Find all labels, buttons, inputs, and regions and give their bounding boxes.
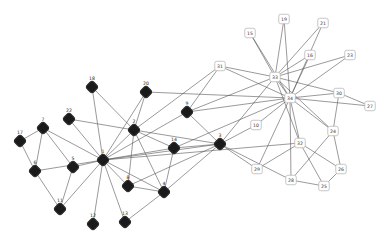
node-11[interactable]: 11: [53, 198, 66, 216]
node-label: 14: [171, 137, 177, 142]
node-19[interactable]: 19: [279, 14, 290, 24]
edge-4-13: [125, 192, 164, 222]
node-shape[interactable]: [167, 141, 180, 154]
node-layer: 1234567891112131417182022101516192123242…: [13, 14, 375, 230]
edge-2-4: [134, 130, 164, 192]
edge-32-33: [275, 77, 300, 143]
edge-29-34: [257, 98, 290, 169]
node-23[interactable]: 23: [345, 50, 356, 60]
node-18[interactable]: 18: [85, 76, 98, 94]
node-label: 6: [34, 160, 37, 165]
node-33[interactable]: 33: [270, 72, 281, 82]
node-9[interactable]: 9: [180, 101, 193, 119]
node-25[interactable]: 25: [319, 181, 330, 191]
edge-24-30: [333, 93, 339, 131]
node-shape[interactable]: [13, 134, 26, 147]
node-label: 17: [17, 130, 23, 135]
node-label: 2: [133, 119, 136, 124]
node-shape[interactable]: [118, 215, 131, 228]
node-label: 8: [127, 175, 130, 180]
node-label: 34: [287, 96, 293, 101]
node-label: 21: [320, 21, 326, 26]
node-label: 29: [254, 167, 260, 172]
edge-6-11: [35, 171, 60, 209]
edge-20-34: [146, 92, 290, 98]
node-label: 28: [288, 178, 294, 183]
node-34[interactable]: 34: [285, 93, 296, 103]
edge-5-11: [60, 167, 73, 209]
node-17[interactable]: 17: [13, 130, 26, 148]
node-label: 5: [72, 156, 75, 161]
node-32[interactable]: 32: [295, 138, 306, 148]
node-shape[interactable]: [62, 112, 75, 125]
node-label: 1: [102, 149, 105, 154]
node-label: 30: [336, 91, 342, 96]
edge-28-34: [290, 98, 291, 180]
node-label: 15: [247, 31, 253, 36]
node-1[interactable]: 1: [96, 149, 109, 167]
node-shape[interactable]: [86, 217, 99, 230]
edge-2-22: [69, 119, 134, 130]
edge-2-3: [134, 130, 220, 144]
node-28[interactable]: 28: [286, 175, 297, 185]
node-label: 3: [219, 133, 222, 138]
node-label: 26: [338, 167, 344, 172]
node-shape[interactable]: [53, 202, 66, 215]
node-15[interactable]: 15: [245, 28, 256, 38]
edge-3-29: [220, 144, 257, 169]
node-label: 12: [90, 213, 96, 218]
edge-2-20: [134, 92, 146, 130]
node-8[interactable]: 8: [121, 175, 134, 193]
edge-15-34: [250, 33, 290, 98]
node-22[interactable]: 22: [62, 108, 75, 126]
node-label: 22: [66, 108, 72, 113]
edge-21-34: [290, 23, 323, 98]
edge-2-18: [92, 87, 134, 130]
edge-3-28: [220, 144, 291, 180]
node-shape[interactable]: [36, 121, 49, 134]
node-20[interactable]: 20: [139, 81, 152, 99]
node-7[interactable]: 7: [36, 117, 49, 135]
edge-6-7: [35, 128, 43, 171]
node-2[interactable]: 2: [127, 119, 140, 137]
node-30[interactable]: 30: [334, 88, 345, 98]
node-14[interactable]: 14: [167, 137, 180, 155]
node-21[interactable]: 21: [318, 18, 329, 28]
node-16[interactable]: 16: [305, 50, 316, 60]
karate-club-network-graph: 1234567891112131417182022101516192123242…: [0, 0, 391, 242]
node-label: 32: [297, 141, 303, 146]
node-shape[interactable]: [157, 185, 170, 198]
node-shape[interactable]: [28, 164, 41, 177]
node-label: 33: [272, 75, 278, 80]
edge-29-32: [257, 143, 300, 169]
node-label: 11: [57, 198, 63, 203]
edge-24-33: [275, 77, 333, 131]
node-label: 24: [330, 129, 336, 134]
node-10[interactable]: 10: [251, 120, 262, 130]
node-label: 18: [89, 76, 95, 81]
node-label: 20: [143, 81, 149, 86]
node-26[interactable]: 26: [336, 164, 347, 174]
node-label: 7: [42, 117, 45, 122]
node-shape[interactable]: [66, 160, 79, 173]
edge-25-32: [300, 143, 324, 186]
node-12[interactable]: 12: [86, 213, 99, 231]
edge-5-7: [43, 128, 73, 167]
node-5[interactable]: 5: [66, 156, 79, 174]
node-29[interactable]: 29: [252, 164, 263, 174]
edge-1-8: [103, 160, 128, 186]
edge-26-32: [300, 143, 341, 169]
edge-31-34: [220, 66, 290, 98]
edge-24-26: [333, 131, 341, 169]
node-label: 9: [186, 101, 189, 106]
node-24[interactable]: 24: [328, 126, 339, 136]
node-label: 13: [122, 211, 128, 216]
node-13[interactable]: 13: [118, 211, 131, 229]
node-27[interactable]: 27: [365, 101, 376, 111]
node-label: 25: [321, 184, 327, 189]
node-31[interactable]: 31: [215, 61, 226, 71]
node-shape[interactable]: [139, 85, 152, 98]
node-label: 16: [307, 53, 313, 58]
node-label: 4: [163, 181, 166, 186]
edge-31-33: [220, 66, 275, 77]
